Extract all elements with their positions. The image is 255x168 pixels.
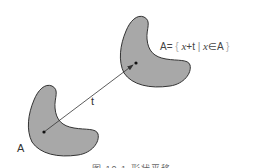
formula-in-a: ∈A — [208, 41, 223, 52]
formula-bar: | — [198, 41, 201, 52]
translation-vector-label: t — [91, 96, 94, 107]
formula-open-brace: { — [175, 41, 178, 52]
translation-arrow — [44, 65, 133, 132]
translated-point — [134, 61, 137, 64]
translation-formula: A= { x+t | x∈A } — [160, 41, 229, 52]
formula-plus-t: +t — [186, 41, 195, 52]
translation-diagram — [0, 0, 255, 168]
formula-close-brace: } — [226, 41, 229, 52]
formula-lhs: A= — [160, 41, 173, 52]
original-shape-label: A — [17, 143, 24, 154]
original-point — [42, 130, 45, 133]
original-shape — [28, 85, 98, 156]
figure-caption: 图 10.1 形状平移 — [92, 162, 171, 168]
